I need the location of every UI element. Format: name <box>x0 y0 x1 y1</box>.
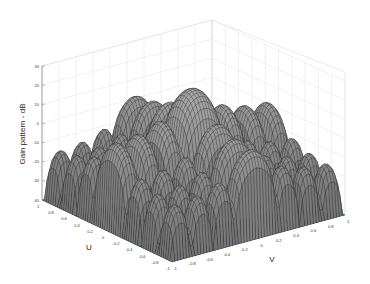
z-tick-label: 30 <box>35 64 40 69</box>
v-tick-label: 0.6 <box>311 228 317 233</box>
z-tick-label: -20 <box>33 159 40 164</box>
z-tick-label: -10 <box>33 140 40 145</box>
z-tick-label: -30 <box>33 178 40 183</box>
u-tick-label: 0.4 <box>74 223 80 228</box>
u-tick-label: -0.4 <box>126 247 134 252</box>
u-tick-label: 0.6 <box>61 216 67 221</box>
u-axis-label: U <box>86 243 92 252</box>
surface-plot: 3020100-10-20-30-40 10.80.60.40.20-0.2-0… <box>0 0 370 284</box>
z-tick-label: 10 <box>35 102 40 107</box>
v-axis-label: V <box>269 255 275 264</box>
v-tick-label: -0.6 <box>206 257 214 262</box>
u-tick-label: 0 <box>102 235 105 240</box>
v-tick-label: 0.8 <box>328 224 334 229</box>
u-tick-label: -0.8 <box>152 260 160 265</box>
z-tick-label: -40 <box>33 198 40 203</box>
v-tick-label: 1 <box>347 219 350 224</box>
u-tick-label: 1 <box>37 204 40 209</box>
v-tick-label: 0.2 <box>276 238 282 243</box>
u-tick-label: -0.6 <box>139 254 147 259</box>
v-tick-label: -1 <box>173 266 177 271</box>
v-tick-label: -0.8 <box>189 261 197 266</box>
u-tick-label: 0.2 <box>87 229 93 234</box>
v-tick-label: -0.4 <box>223 252 231 257</box>
z-axis-label: Gain pattern - dB <box>18 104 27 165</box>
u-tick-label: -0.2 <box>113 241 121 246</box>
v-tick-label: 0 <box>260 243 263 248</box>
z-tick-label: 20 <box>35 83 40 88</box>
v-tick-label: 0.4 <box>293 233 299 238</box>
u-tick-label: 0.8 <box>48 210 54 215</box>
z-tick-label: 0 <box>37 121 40 126</box>
u-tick-label: -1 <box>166 266 170 271</box>
v-tick-label: -0.2 <box>241 247 249 252</box>
